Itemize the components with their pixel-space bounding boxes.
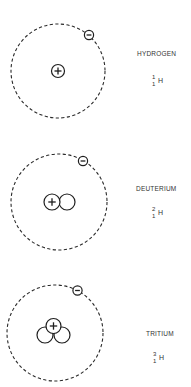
electron-icon (73, 286, 82, 295)
deuterium-notation: 2 1 H (152, 206, 172, 222)
deuterium-atom (11, 154, 107, 250)
mass-number: 2 (152, 206, 155, 212)
element-symbol: H (158, 77, 163, 84)
isotope-diagram (0, 0, 191, 387)
deuterium-nucleus (44, 194, 75, 210)
hydrogen-nucleus (52, 65, 65, 78)
tritium-label: TRITIUM (146, 330, 174, 337)
atomic-number: 1 (152, 81, 155, 87)
element-symbol: H (158, 209, 163, 216)
electron-icon (78, 156, 87, 165)
electron-icon (84, 30, 93, 39)
atomic-number: 1 (152, 213, 155, 219)
hydrogen-notation: 1 1 H (152, 74, 172, 90)
proton-icon (52, 65, 65, 78)
hydrogen-atom (11, 24, 105, 118)
tritium-nucleus (37, 319, 70, 344)
proton-icon (46, 319, 61, 334)
hydrogen-label: HYDROGEN (137, 50, 176, 57)
element-symbol: H (159, 354, 164, 361)
atomic-number: 1 (153, 358, 156, 364)
proton-icon (44, 194, 60, 210)
mass-number: 3 (153, 351, 156, 357)
deuterium-label: DEUTERIUM (136, 185, 176, 192)
mass-number: 1 (152, 74, 155, 80)
tritium-notation: 3 1 H (153, 351, 173, 367)
neutron-icon (59, 194, 75, 210)
tritium-atom (7, 285, 103, 381)
